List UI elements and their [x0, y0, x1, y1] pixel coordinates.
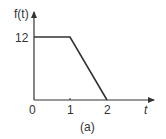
x-axis-label: t	[144, 103, 148, 117]
x-tick-label-1: 1	[67, 103, 74, 117]
figure-caption: (a)	[80, 120, 95, 134]
f-t-line	[34, 37, 107, 100]
y-axis-label: f(t)	[14, 7, 29, 21]
chart: f(t) 12 0 1 2 t (a)	[0, 0, 166, 139]
y-tick-label-12: 12	[15, 31, 29, 45]
x-tick-label-0: 0	[29, 103, 36, 117]
x-tick-label-2: 2	[104, 103, 111, 117]
